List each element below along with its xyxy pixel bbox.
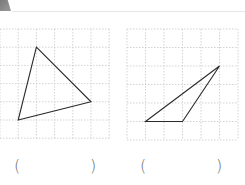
grid-left xyxy=(0,29,109,138)
answer-left-close-paren: ) xyxy=(90,156,96,175)
answer-right-close-paren: ) xyxy=(216,156,222,175)
answer-left-blank[interactable] xyxy=(24,158,89,176)
grid-right xyxy=(127,29,238,140)
answer-right-open-paren: ( xyxy=(140,156,146,175)
answer-right-blank[interactable] xyxy=(150,158,215,176)
answer-left-open-paren: ( xyxy=(14,156,20,175)
